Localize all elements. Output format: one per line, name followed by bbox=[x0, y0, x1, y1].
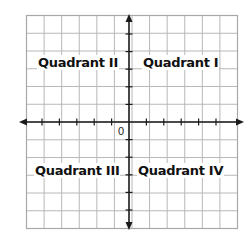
coordinate-grid bbox=[0, 0, 248, 242]
x-axis-left-arrow-icon bbox=[19, 119, 27, 126]
quadrant-ii-label: Quadrant II bbox=[37, 55, 119, 70]
x-axis-right-arrow-icon bbox=[236, 119, 244, 126]
quadrant-iv-label: Quadrant IV bbox=[137, 163, 224, 178]
origin-label: 0 bbox=[118, 125, 124, 137]
quadrant-i-label: Quadrant I bbox=[142, 55, 219, 70]
quadrant-iii-label: Quadrant III bbox=[34, 163, 120, 178]
coordinate-plane: 0 Quadrant II Quadrant I Quadrant III Qu… bbox=[0, 0, 248, 242]
